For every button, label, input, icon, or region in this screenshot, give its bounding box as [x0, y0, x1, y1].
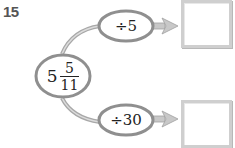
start-denominator: 11 — [60, 76, 80, 92]
start-whole: 5 — [47, 66, 58, 86]
upper-connector — [62, 26, 100, 54]
upper-answer-box[interactable] — [181, 0, 232, 48]
lower-connector — [62, 98, 100, 122]
upper-operation-label: ÷5 — [99, 12, 153, 40]
lower-operation-label: ÷30 — [99, 106, 153, 134]
lower-answer-box[interactable] — [181, 100, 232, 148]
lower-arrow-icon — [153, 111, 178, 127]
start-numerator: 5 — [64, 61, 75, 76]
upper-arrow-icon — [153, 18, 178, 34]
start-value: 5 5 11 — [36, 56, 90, 96]
start-fraction: 5 11 — [60, 61, 80, 92]
